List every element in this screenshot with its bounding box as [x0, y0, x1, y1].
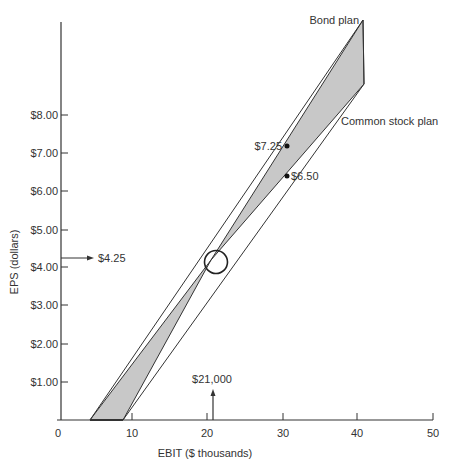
y-tick-label: $8.00	[30, 109, 58, 121]
x-tick-label: 40	[351, 427, 363, 439]
bond-plan-label: Bond plan	[309, 14, 359, 26]
stock-plan-line	[123, 84, 364, 420]
y-axis-title: EPS (dollars)	[8, 230, 20, 295]
ebit-eps-chart: $1.00 $2.00 $3.00 $4.00 $5.00 $6.00 $7.0…	[0, 0, 451, 465]
x-ticks	[132, 413, 433, 420]
y-ticks	[61, 115, 68, 382]
stock-point-label: $6.50	[291, 170, 319, 182]
y-tick-label: $7.00	[30, 147, 58, 159]
x-tick-label: 20	[201, 427, 213, 439]
y-tick-label: $3.00	[30, 299, 58, 311]
x-tick-label: 30	[277, 427, 289, 439]
y-tick-label: $6.00	[30, 185, 58, 197]
x-tick-label: 50	[427, 427, 439, 439]
x-tick-label: 10	[126, 427, 138, 439]
shaded-region-upper	[211, 20, 364, 260]
eps-indifference-label: $4.25	[98, 252, 126, 264]
y-tick-label: $2.00	[30, 338, 58, 350]
bond-point-label: $7.25	[254, 140, 282, 152]
y-tick-label: $4.00	[30, 261, 58, 273]
bond-plan-point	[285, 144, 290, 149]
x-tick-label: 0	[55, 427, 61, 439]
y-tick-label: $5.00	[30, 224, 58, 236]
x-axis-title: EBIT ($ thousands)	[158, 447, 253, 459]
stock-plan-point	[285, 174, 290, 179]
shaded-region-lower	[90, 260, 211, 420]
stock-plan-label: Common stock plan	[341, 115, 438, 127]
y-tick-label: $1.00	[30, 376, 58, 388]
ebit-indifference-label: $21,000	[192, 373, 232, 385]
arrowhead-icon	[87, 256, 94, 261]
bond-plan-line	[90, 20, 363, 420]
arrowhead-icon	[211, 389, 216, 396]
